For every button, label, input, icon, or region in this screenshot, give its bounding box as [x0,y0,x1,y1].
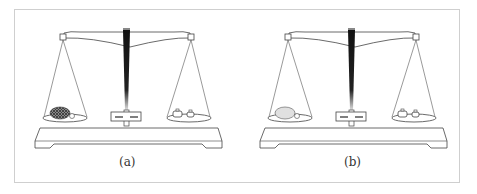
balance-diagram [0,0,477,194]
balance-a [35,28,222,148]
smooth-object [275,107,295,119]
textured-object [50,107,70,119]
label-a: (a) [119,155,136,169]
balance-b [260,28,447,148]
label-b: (b) [344,155,361,169]
